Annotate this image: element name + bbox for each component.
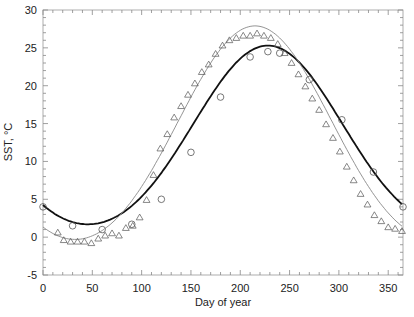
- circle-marker: [265, 48, 272, 55]
- x-tick-label: 300: [330, 282, 348, 294]
- plot-border: [43, 10, 403, 275]
- triangle-marker: [171, 114, 178, 120]
- x-axis-label: Day of year: [195, 296, 252, 308]
- circle-marker: [69, 222, 76, 229]
- y-axis-ticks: -5051015202530: [25, 4, 403, 281]
- triangle-marker: [378, 218, 385, 224]
- triangle-marker: [288, 60, 295, 66]
- circle-marker: [188, 149, 195, 156]
- triangle-marker: [54, 229, 61, 235]
- triangle-marker: [295, 71, 302, 77]
- x-tick-label: 0: [40, 282, 46, 294]
- circle-marker: [158, 196, 165, 203]
- triangle-marker: [350, 177, 357, 183]
- circle-marker: [247, 54, 254, 61]
- triangle-marker: [136, 214, 143, 220]
- triangle-marker: [88, 240, 95, 246]
- x-tick-label: 250: [280, 282, 298, 294]
- triangle-marker: [185, 91, 192, 97]
- triangle-marker: [143, 197, 150, 203]
- triangle-marker: [109, 230, 116, 236]
- sst-chart: 050100150200250300350 -5051015202530 Day…: [0, 0, 414, 317]
- triangle-marker: [343, 163, 350, 169]
- y-tick-label: 25: [25, 42, 37, 54]
- y-tick-label: 10: [25, 155, 37, 167]
- y-axis-label: SST, °C: [2, 123, 14, 162]
- circle-marker: [217, 94, 224, 101]
- triangle-marker: [399, 228, 406, 234]
- triangle-marker: [247, 32, 254, 38]
- x-axis-ticks: 050100150200250300350: [40, 10, 398, 294]
- triangle-marker: [336, 148, 343, 154]
- triangle-marker: [261, 32, 268, 38]
- x-tick-label: 100: [132, 282, 150, 294]
- triangle-marker: [122, 225, 129, 231]
- triangle-marker: [233, 35, 240, 41]
- plot-frame: [43, 10, 403, 275]
- triangle-marker: [357, 191, 364, 197]
- triangle-marker: [316, 107, 323, 113]
- triangle-marker: [254, 30, 261, 36]
- triangle-marker: [150, 172, 157, 178]
- y-tick-label: 30: [25, 4, 37, 16]
- triangle-marker: [240, 32, 247, 38]
- triangle-marker: [309, 95, 316, 101]
- circle-marker: [99, 226, 106, 233]
- triangle-marker: [364, 201, 371, 207]
- triangle-marker: [116, 232, 123, 238]
- triangle-marker: [164, 131, 171, 137]
- y-tick-label: 0: [31, 231, 37, 243]
- fit-curves: [43, 26, 402, 240]
- y-tick-label: 20: [25, 80, 37, 92]
- x-tick-label: 150: [182, 282, 200, 294]
- triangle-marker: [178, 103, 185, 109]
- triangle-marker: [392, 225, 399, 231]
- y-tick-label: 15: [25, 118, 37, 130]
- triangle-marker: [267, 35, 274, 41]
- triangle-marker: [95, 235, 102, 241]
- fit-circles-curve: [43, 46, 402, 225]
- x-tick-label: 50: [86, 282, 98, 294]
- triangle-marker: [385, 224, 392, 230]
- x-tick-label: 200: [231, 282, 249, 294]
- triangle-marker: [302, 83, 309, 89]
- triangle-marker: [371, 212, 378, 218]
- triangle-marker: [274, 41, 281, 47]
- y-tick-label: 5: [31, 193, 37, 205]
- triangle-marker: [330, 135, 337, 141]
- x-tick-label: 350: [379, 282, 397, 294]
- chart-canvas: 050100150200250300350 -5051015202530 Day…: [0, 0, 414, 317]
- triangle-marker: [323, 121, 330, 127]
- y-tick-label: -5: [27, 269, 37, 281]
